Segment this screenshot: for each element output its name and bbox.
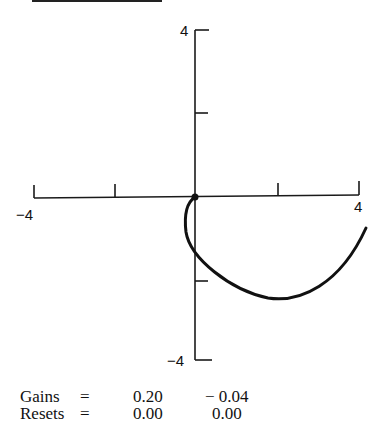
gains-label: Gains (20, 388, 60, 405)
phase-plot (0, 0, 380, 430)
origin-marker (192, 194, 199, 201)
resets-equals: = (80, 405, 90, 422)
y-max-label: 4 (180, 22, 188, 39)
resets-label: Resets (20, 405, 64, 422)
y-min-label: −4 (167, 352, 184, 369)
resets-value-1: 0.00 (133, 405, 163, 422)
gains-equals: = (80, 388, 90, 405)
trajectory-curve (185, 197, 366, 299)
gains-value-2: − 0.04 (205, 388, 249, 405)
resets-value-2: 0.00 (212, 405, 242, 422)
x-min-label: −4 (16, 206, 33, 223)
x-max-label: 4 (354, 198, 362, 215)
gains-value-1: 0.20 (133, 388, 163, 405)
